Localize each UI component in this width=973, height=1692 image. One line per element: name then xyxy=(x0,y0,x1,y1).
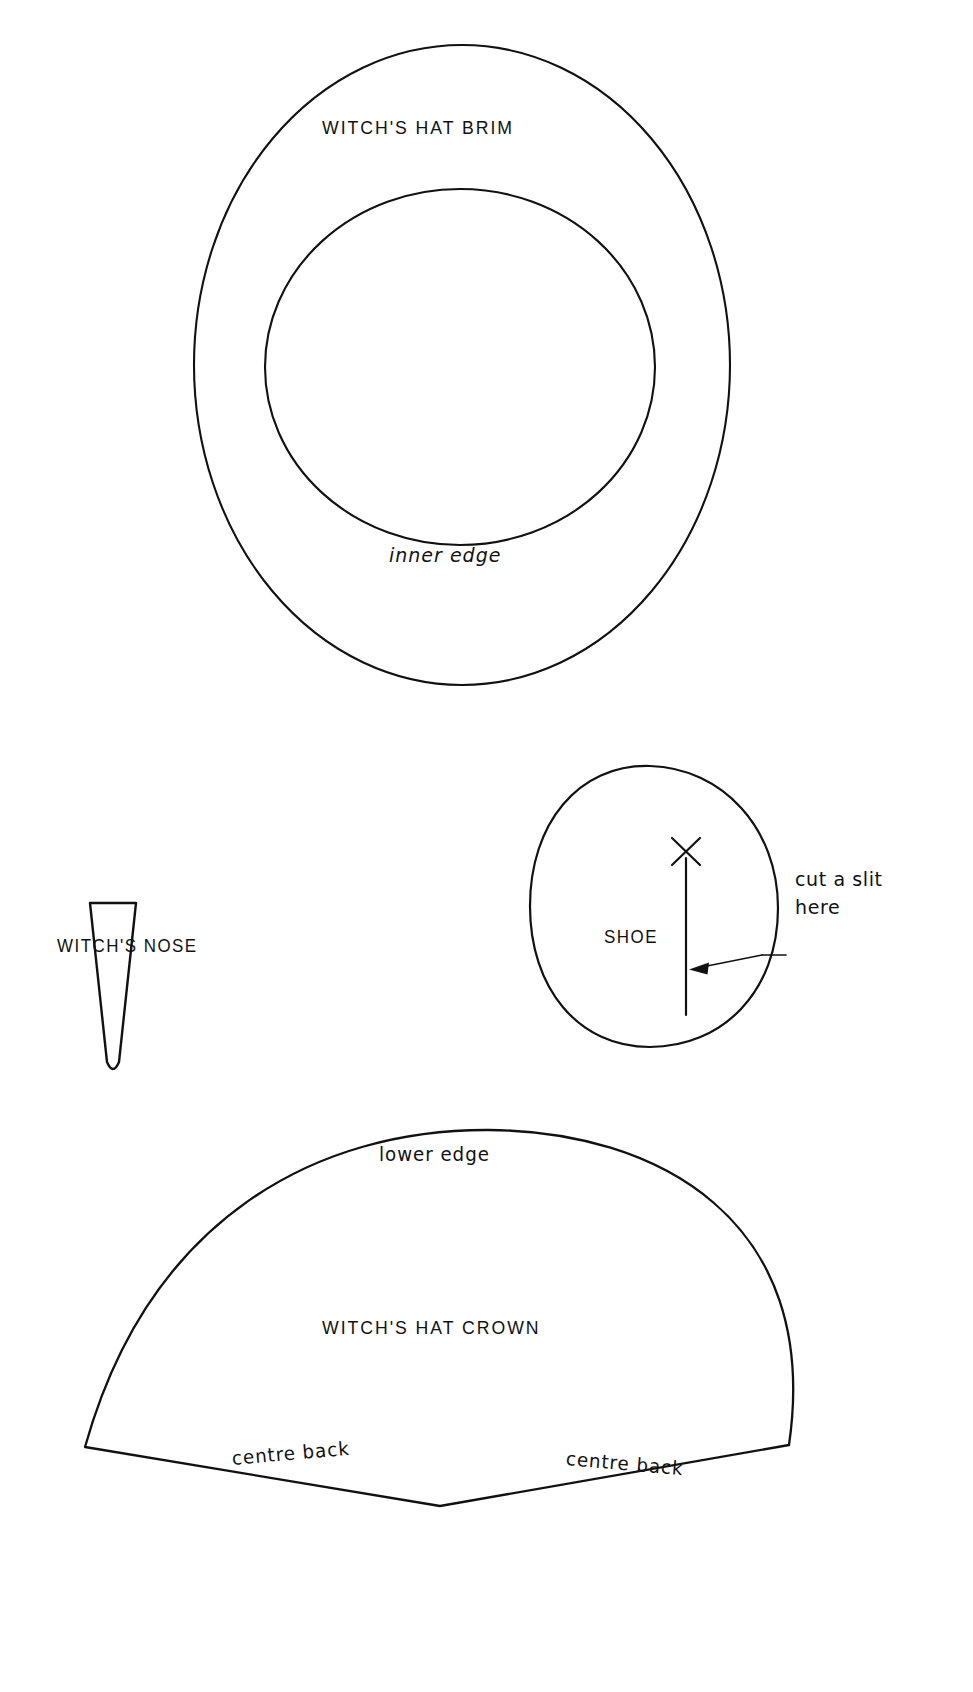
shoe-label: SHOE xyxy=(604,928,658,946)
crown-lower-edge-label: lower edge xyxy=(379,1145,490,1164)
pattern-sheet: WITCH'S HAT BRIM inner edge WITCH'S NOSE… xyxy=(0,0,973,1692)
pattern-drawing xyxy=(0,0,973,1692)
cut-slit-annotation-line2: here xyxy=(795,898,840,917)
cut-slit-annotation-line1: cut a slit xyxy=(795,870,883,889)
crown-label: WITCH'S HAT CROWN xyxy=(322,1318,541,1337)
nose-outline xyxy=(90,903,136,1069)
brim-label: WITCH'S HAT BRIM xyxy=(322,118,514,137)
shoe-outline xyxy=(530,766,778,1047)
brim-inner-edge-label: inner edge xyxy=(389,546,501,565)
brim-inner-edge xyxy=(265,189,655,545)
brim-outer-edge xyxy=(194,45,730,685)
nose-label: WITCH'S NOSE xyxy=(57,937,198,955)
